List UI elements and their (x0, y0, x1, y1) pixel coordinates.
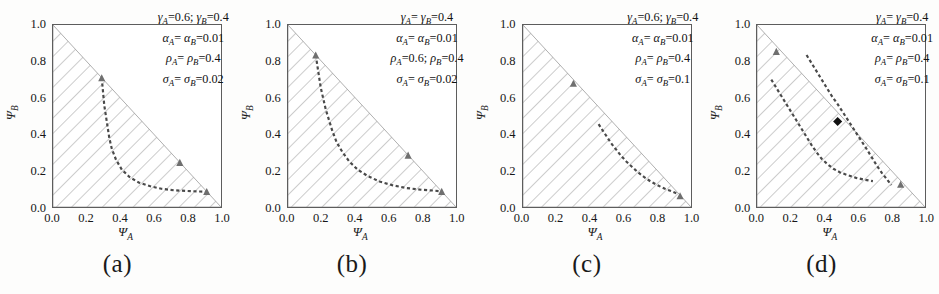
x-tick-label: 0.4 (103, 212, 137, 225)
y-tick-label: 0.8 (716, 55, 750, 68)
panel-caption-d: (d) (704, 250, 939, 278)
panel-d: 0.00.20.40.60.81.00.00.20.40.60.81.0ΨBΨA… (704, 0, 939, 294)
y-tick-label: 0.4 (12, 128, 46, 141)
param-value: =0.4 (907, 51, 929, 65)
param-separator: = (886, 51, 896, 65)
y-axis-symbol: Ψ (3, 111, 18, 120)
x-axis-symbol: Ψ (118, 224, 127, 239)
parameter-line: γA= γB=0.4 (871, 8, 933, 29)
x-tick-label: 0.2 (69, 212, 103, 225)
x-tick-label: 0.0 (270, 212, 304, 225)
x-tick-label: 0.4 (573, 212, 607, 225)
panel-caption-b: (b) (235, 250, 470, 278)
x-tick-label: 1.0 (909, 212, 939, 225)
x-tick-label: 0.8 (406, 212, 440, 225)
x-tick-label: 0.8 (171, 212, 205, 225)
param-value: =0.4 (431, 10, 453, 24)
x-axis-subscript: A (362, 232, 368, 242)
param-value: =0.01 (665, 31, 693, 45)
x-tick-label: 0.4 (807, 212, 841, 225)
parameter-line: ρA= ρB=0.4 (158, 49, 229, 70)
y-tick-label: 1.0 (482, 18, 516, 31)
y-tick-label: 0.2 (482, 165, 516, 178)
x-tick-label: 0.0 (739, 212, 773, 225)
x-tick-label: 0.0 (35, 212, 69, 225)
parameter-annotation-d: γA= γB=0.4αA= αB=0.01ρA= ρB=0.4σA= σB=0.… (871, 8, 933, 91)
y-tick-label: 0.6 (716, 92, 750, 105)
param-value: =0.4 (668, 51, 690, 65)
y-tick-label: 0.6 (482, 92, 516, 105)
x-axis-subscript: A (831, 232, 837, 242)
y-tick-label: 1.0 (716, 18, 750, 31)
y-axis-label: ΨB (237, 105, 255, 120)
parameter-line: αA= αB=0.01 (390, 29, 463, 50)
x-axis-subscript: A (597, 232, 603, 242)
parameter-line: σA= σB=0.02 (158, 70, 229, 91)
param-value: =0.01 (905, 31, 933, 45)
y-axis-label: ΨB (3, 105, 21, 120)
parameter-annotation-b: γA= γB=0.4αA= αB=0.01ρA=0.6; ρB=0.4σA= σ… (390, 8, 463, 91)
param-value: =0.1 (907, 72, 929, 86)
x-axis-label: ΨA (353, 224, 368, 242)
param-separator: = (647, 51, 657, 65)
x-axis-subscript: A (127, 232, 133, 242)
param-separator: = (886, 10, 896, 24)
param-separator: = (408, 72, 418, 86)
param-separator: = (886, 72, 896, 86)
param-value: =0.01 (196, 31, 224, 45)
y-axis-symbol: Ψ (472, 111, 487, 120)
param-separator: = (177, 51, 187, 65)
parameter-line: ρA=0.6; ρB=0.4 (390, 49, 463, 70)
y-tick-label: 0.2 (247, 165, 281, 178)
x-tick-label: 0.2 (539, 212, 573, 225)
x-tick-label: 0.6 (372, 212, 406, 225)
y-tick-label: 0.4 (716, 128, 750, 141)
param-value: =0.02 (429, 72, 457, 86)
parameter-line: αA= αB=0.01 (627, 29, 698, 50)
parameter-line: αA= αB=0.01 (871, 29, 933, 50)
figure-panels: 0.00.20.40.60.81.00.00.20.40.60.81.0ΨBΨA… (0, 0, 939, 294)
x-axis-label: ΨA (118, 224, 133, 242)
y-tick-label: 1.0 (12, 18, 46, 31)
param-value: =0.4 (207, 10, 229, 24)
x-tick-label: 0.8 (875, 212, 909, 225)
y-tick-label: 0.6 (12, 92, 46, 105)
y-tick-label: 0.2 (12, 165, 46, 178)
parameter-annotation-c: γA=0.6; γB=0.4αA= αB=0.01ρA= ρB=0.4σA= σ… (627, 8, 698, 91)
y-tick-label: 0.8 (482, 55, 516, 68)
y-axis-subscript: B (245, 105, 255, 111)
parameter-line: γA= γB=0.4 (390, 8, 463, 29)
parameter-line: σA= σB=0.02 (390, 70, 463, 91)
param-value: =0.4 (441, 51, 463, 65)
y-axis-subscript: B (714, 105, 724, 111)
x-tick-label: 0.6 (841, 212, 875, 225)
panel-caption-a: (a) (0, 250, 235, 278)
parameter-annotation-a: γA=0.6; γB=0.4αA= αB=0.01ρA= ρB=0.4σA= σ… (158, 8, 229, 91)
param-value: =0.1 (668, 72, 690, 86)
y-tick-label: 0.2 (716, 165, 750, 178)
param-separator: =0.6; (637, 10, 666, 24)
param-separator: = (411, 10, 421, 24)
y-axis-symbol: Ψ (707, 111, 722, 120)
param-value: =0.4 (906, 10, 928, 24)
param-separator: =0.6; (168, 10, 197, 24)
param-value: =0.4 (676, 10, 698, 24)
y-tick-label: 0.4 (247, 128, 281, 141)
x-tick-label: 0.6 (137, 212, 171, 225)
x-tick-label: 0.2 (773, 212, 807, 225)
y-axis-label: ΨB (472, 105, 490, 120)
panel-a: 0.00.20.40.60.81.00.00.20.40.60.81.0ΨBΨA… (0, 0, 235, 294)
param-value: =0.4 (198, 51, 220, 65)
param-separator: = (174, 31, 184, 45)
param-separator: = (174, 72, 184, 86)
parameter-line: ρA= ρB=0.4 (871, 49, 933, 70)
x-axis-label: ΨA (588, 224, 603, 242)
x-axis-symbol: Ψ (353, 224, 362, 239)
parameter-line: γA=0.6; γB=0.4 (158, 8, 229, 29)
x-axis-symbol: Ψ (588, 224, 597, 239)
y-tick-label: 0.6 (247, 92, 281, 105)
parameter-line: σA= σB=0.1 (871, 70, 933, 91)
x-tick-label: 0.8 (641, 212, 675, 225)
y-axis-symbol: Ψ (237, 111, 252, 120)
x-tick-label: 0.6 (607, 212, 641, 225)
